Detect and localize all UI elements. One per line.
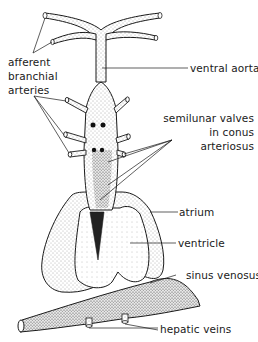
ventral-aorta-shape	[43, 13, 162, 83]
ventricle-label: ventricle	[178, 236, 225, 250]
ventricle-shape	[75, 206, 149, 287]
semilunar-valves-label: semilunar valves in conus arteriosus	[160, 111, 254, 153]
label-line: in conus arteriosus	[160, 125, 254, 153]
afferent-branchial-arteries-label: afferent branchial arteries	[8, 55, 58, 97]
conus-arteriosus-shape	[84, 82, 118, 210]
ventral-aorta-label: ventral aorta	[190, 61, 258, 75]
hepatic-veins-label: hepatic veins	[160, 322, 231, 336]
heart-diagram	[0, 0, 258, 342]
label-line: arteries	[8, 83, 58, 97]
label-line: semilunar valves	[160, 111, 254, 125]
atrium-label: atrium	[179, 205, 214, 219]
sinus-venosus-label: sinus venosus	[186, 268, 258, 282]
label-line: afferent	[8, 55, 58, 69]
label-line: branchial	[8, 69, 58, 83]
